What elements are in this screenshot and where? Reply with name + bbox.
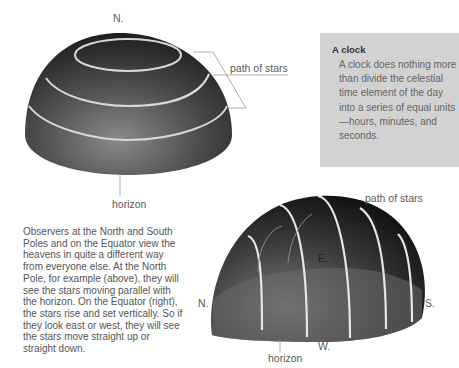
top-horizon-label: horizon <box>112 198 146 210</box>
clock-sidebar-box: A clock A clock does nothing more than d… <box>320 33 459 167</box>
sidebar-title: A clock <box>332 44 365 55</box>
bottom-north-label: N. <box>198 297 209 309</box>
south-label: S. <box>425 297 435 309</box>
body-paragraph: Observers at the North and South Poles a… <box>23 226 183 355</box>
east-label: E. <box>318 252 328 264</box>
bottom-horizon-label: horizon <box>268 352 302 364</box>
sidebar-body: A clock does nothing more than divide th… <box>339 58 457 143</box>
west-label: W. <box>318 340 330 352</box>
bottom-path-of-stars-label: path of stars <box>365 192 423 204</box>
top-north-label: N. <box>113 12 124 24</box>
top-path-of-stars-label: path of stars <box>230 62 288 74</box>
